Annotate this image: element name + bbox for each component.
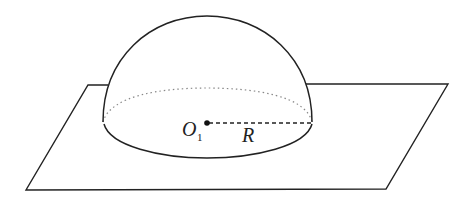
radius-label: R — [241, 124, 254, 146]
base-circle-front — [104, 124, 312, 158]
center-point — [204, 120, 210, 126]
diagram-canvas: O 1 R — [0, 0, 471, 218]
base-circle-back-dotted — [103, 88, 312, 122]
center-subscript: 1 — [197, 131, 203, 143]
plane — [26, 84, 448, 190]
hemisphere-diagram: O 1 R — [0, 0, 471, 218]
center-label: O — [182, 118, 196, 140]
hemisphere-dome — [103, 16, 312, 122]
